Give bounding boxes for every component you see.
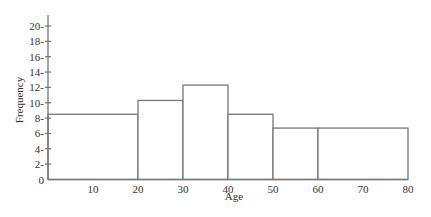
y-tick-label: 4- bbox=[35, 143, 45, 155]
histogram-chart: 02-4-6-8-10-12-14-16-18-20- 102030405060… bbox=[0, 0, 431, 217]
histogram-bar bbox=[183, 85, 228, 179]
histogram-bar bbox=[138, 100, 183, 179]
x-tick-label: 80 bbox=[403, 183, 415, 195]
y-tick-label: 20- bbox=[29, 20, 44, 32]
y-tick-label: 10- bbox=[29, 97, 44, 109]
histogram-bar bbox=[48, 114, 138, 179]
x-tick-label: 30 bbox=[178, 183, 190, 195]
histogram-bar bbox=[318, 128, 408, 179]
x-tick-label: 60 bbox=[313, 183, 325, 195]
y-tick-label: 14- bbox=[29, 66, 44, 78]
histogram-bar bbox=[228, 114, 273, 179]
histogram-bar bbox=[273, 128, 318, 179]
x-axis-title: Age bbox=[225, 190, 243, 202]
x-tick-label: 50 bbox=[268, 183, 280, 195]
y-tick-label: 18- bbox=[29, 35, 44, 47]
y-tick-label: 16- bbox=[29, 51, 44, 63]
y-tick-label: 8- bbox=[35, 112, 45, 124]
x-tick-label: 20 bbox=[133, 183, 145, 195]
y-axis-title: Frequency bbox=[13, 76, 25, 123]
x-tick-label: 10 bbox=[88, 183, 100, 195]
x-tick-label: 70 bbox=[358, 183, 370, 195]
y-tick-label: 0 bbox=[39, 174, 45, 186]
y-tick-label: 6- bbox=[35, 127, 45, 139]
y-axis: 02-4-6-8-10-12-14-16-18-20- bbox=[29, 15, 51, 186]
y-tick-label: 12- bbox=[29, 81, 44, 93]
y-tick-label: 2- bbox=[35, 158, 45, 170]
histogram-bars bbox=[48, 85, 408, 179]
